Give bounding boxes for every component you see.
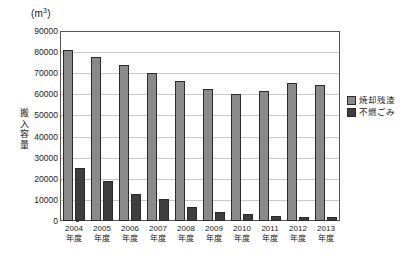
x-axis-label-year: 2007	[144, 224, 172, 234]
y-axis-tick-label: 40000	[22, 133, 58, 142]
x-axis-label-suffix: 年度	[228, 234, 256, 244]
y-axis-tick-mark	[76, 221, 79, 222]
x-axis-label-suffix: 年度	[200, 234, 228, 244]
x-axis-tick-labels: 2004年度2005年度2006年度2007年度2008年度2009年度2010…	[60, 224, 340, 254]
bar	[203, 89, 213, 221]
bar	[159, 199, 169, 221]
bar	[91, 57, 101, 221]
bar	[187, 207, 197, 221]
legend-item-label: 焼却残渣	[359, 96, 395, 105]
x-axis-tick-label: 2009年度	[200, 224, 228, 244]
y-axis-tick-label: 70000	[22, 69, 58, 78]
y-axis-tick-label: 10000	[22, 196, 58, 205]
x-axis-label-suffix: 年度	[256, 234, 284, 244]
legend-item[interactable]: 焼却残渣	[347, 96, 405, 105]
x-axis-tick-label: 2006年度	[116, 224, 144, 244]
x-axis-tick-label: 2008年度	[172, 224, 200, 244]
x-axis-label-year: 2008	[172, 224, 200, 234]
legend-swatch-icon	[347, 108, 356, 117]
bar	[287, 83, 297, 221]
y-axis-tick-label: 80000	[22, 48, 58, 57]
x-axis-label-year: 2006	[116, 224, 144, 234]
bar	[75, 168, 85, 221]
x-axis-label-year: 2004	[60, 224, 88, 234]
x-axis-tick-label: 2005年度	[88, 224, 116, 244]
bar	[63, 50, 73, 221]
x-axis-label-suffix: 年度	[144, 234, 172, 244]
legend-item-label: 不燃ごみ	[359, 108, 395, 117]
y-axis-tick-label: 0	[22, 217, 58, 226]
bar	[147, 73, 157, 221]
chart-legend: 焼却残渣不燃ごみ	[347, 96, 405, 120]
bar	[119, 65, 129, 221]
y-axis-tick-label: 20000	[22, 175, 58, 184]
x-axis-label-suffix: 年度	[284, 234, 312, 244]
x-axis-tick-label: 2011年度	[256, 224, 284, 244]
x-axis-label-suffix: 年度	[60, 234, 88, 244]
x-axis-tick-label: 2012年度	[284, 224, 312, 244]
legend-swatch-icon	[347, 96, 356, 105]
x-axis-label-year: 2010	[228, 224, 256, 234]
legend-item[interactable]: 不燃ごみ	[347, 108, 405, 117]
bar	[315, 85, 325, 221]
x-axis-tick-label: 2004年度	[60, 224, 88, 244]
x-axis-label-suffix: 年度	[88, 234, 116, 244]
x-axis-label-year: 2009	[200, 224, 228, 234]
bar-chart: (m3) 搬入容量 900008000070000600005000040000…	[0, 0, 407, 257]
y-axis-tick-label: 50000	[22, 111, 58, 120]
bar	[327, 217, 337, 221]
x-axis-label-year: 2012	[284, 224, 312, 234]
bar	[259, 91, 269, 221]
x-axis-label-suffix: 年度	[116, 234, 144, 244]
bar	[271, 216, 281, 221]
x-axis-label-year: 2005	[88, 224, 116, 234]
bar	[243, 214, 253, 221]
y-axis-tick-labels: 9000080000700006000050000400003000020000…	[18, 0, 58, 257]
x-axis-label-year: 2011	[256, 224, 284, 234]
bar	[103, 181, 113, 221]
x-axis-label-year: 2013	[312, 224, 340, 234]
y-axis-tick-label: 60000	[22, 90, 58, 99]
x-axis-tick-label: 2007年度	[144, 224, 172, 244]
x-axis-tick-label: 2010年度	[228, 224, 256, 244]
x-axis-label-suffix: 年度	[312, 234, 340, 244]
bar	[175, 81, 185, 221]
y-axis-tick-label: 30000	[22, 154, 58, 163]
x-axis-tick-label: 2013年度	[312, 224, 340, 244]
y-axis-tick-label: 90000	[22, 27, 58, 36]
bar	[231, 94, 241, 221]
bar	[299, 217, 309, 221]
x-axis-label-suffix: 年度	[172, 234, 200, 244]
bars-layer	[60, 31, 340, 221]
bar	[131, 194, 141, 221]
bar	[215, 212, 225, 222]
